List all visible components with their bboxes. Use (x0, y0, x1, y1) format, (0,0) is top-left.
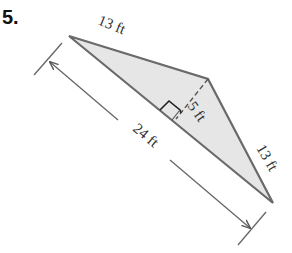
label-base: 24 ft (130, 120, 162, 151)
triangle-diagram: 13 ft 5 ft 13 ft 24 ft (0, 0, 292, 253)
dimension-tick-left (34, 43, 62, 75)
label-right-side: 13 ft (253, 142, 281, 175)
dimension-line-upper (50, 62, 118, 120)
triangle-shape (69, 36, 273, 203)
label-left-side: 13 ft (96, 12, 129, 38)
dimension-tick-right (238, 212, 266, 245)
